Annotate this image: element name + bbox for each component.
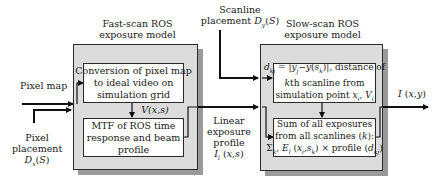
scanline-placement-arrow: [220, 30, 258, 78]
pixel-placement-arrow: [34, 110, 71, 123]
connector-arrows: [0, 0, 445, 184]
